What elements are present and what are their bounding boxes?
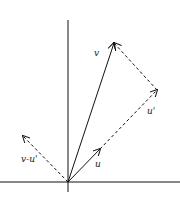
- label-v: v: [94, 48, 99, 58]
- vector-u-prime: [100, 90, 157, 149]
- label-u-prime: u': [147, 106, 155, 116]
- label-v-minus-u-prime: v-u': [21, 154, 37, 164]
- connector-u-prime-to-v: [114, 43, 157, 90]
- vector-v: [68, 43, 114, 182]
- label-u: u: [95, 159, 101, 169]
- vector-diagram: v u u' v-u': [0, 0, 180, 207]
